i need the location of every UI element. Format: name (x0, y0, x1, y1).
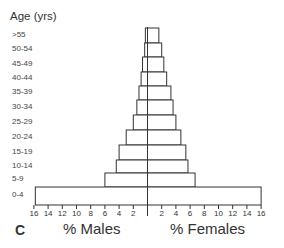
panel-label: C (15, 222, 25, 238)
population-pyramid-chart (0, 0, 284, 248)
x-tick-label: 6 (188, 209, 192, 218)
age-label: 15-19 (12, 147, 42, 156)
age-label: 5-9 (12, 174, 42, 183)
bars-group (35, 28, 261, 205)
age-label: >55 (12, 30, 42, 39)
bar-5-9 (105, 173, 195, 187)
bar-0-4 (35, 187, 261, 205)
age-label: 20-24 (12, 132, 42, 141)
x-tick-label: 4 (117, 209, 121, 218)
x-tick-label: 14 (44, 209, 53, 218)
x-tick-label: 14 (242, 209, 251, 218)
x-tick-label: 16 (29, 209, 38, 218)
bar-45-49 (143, 57, 164, 72)
x-tick-label: 16 (257, 209, 266, 218)
age-label: 10-14 (12, 161, 42, 170)
x-tick-label: 4 (174, 209, 178, 218)
age-label: 0-4 (12, 190, 42, 199)
bar-30-34 (137, 100, 173, 115)
bar-10-14 (116, 160, 188, 173)
y-axis-title: Age (yrs) (10, 10, 57, 22)
age-label: 40-44 (12, 73, 42, 82)
age-label: 50-54 (12, 44, 42, 53)
age-label: 45-49 (12, 59, 42, 68)
age-label: 35-39 (12, 87, 42, 96)
bar-35-39 (139, 86, 171, 100)
bar-40-44 (141, 72, 167, 86)
bar-25-29 (133, 115, 176, 130)
x-tick-label: 2 (159, 209, 163, 218)
age-label: 25-29 (12, 117, 42, 126)
x-tick-label: 2 (131, 209, 135, 218)
x-tick-label: 12 (228, 209, 237, 218)
x-tick-label: 8 (88, 209, 92, 218)
x-tick-label: 12 (58, 209, 67, 218)
x-axis-title-females: % Females (170, 220, 245, 237)
age-label: 30-34 (12, 102, 42, 111)
bar-15-19 (119, 145, 186, 160)
x-axis-title-males: % Males (63, 220, 121, 237)
x-tick-label: 10 (214, 209, 223, 218)
x-tick-label: 10 (72, 209, 81, 218)
x-tick-label: 6 (103, 209, 107, 218)
x-tick-label: 8 (202, 209, 206, 218)
bar-20-24 (126, 130, 181, 145)
